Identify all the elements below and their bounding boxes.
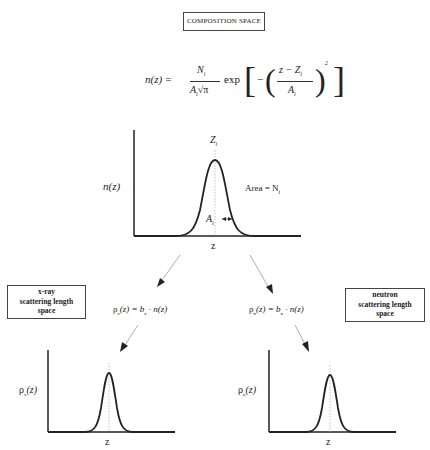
peak-label: Zi [210, 134, 217, 147]
neutron-box-line-3: space [346, 309, 424, 319]
neutron-space-box: neutron scattering length space [345, 288, 425, 322]
main-ylabel: n(z) [103, 180, 120, 192]
neutron-box-line-2: scattering length [346, 300, 424, 310]
main-xlabel: z [211, 240, 215, 251]
diagram-graphics [0, 0, 430, 450]
neutron-equation: ρn(z) = bn · n(z) [249, 304, 304, 316]
xray-box-line-2: scattering length [8, 297, 85, 307]
xray-space-box: x-ray scattering length space [7, 285, 86, 319]
xray-equation: ρx(z) = bx · n(z) [113, 304, 167, 316]
xray-box-line-1: x-ray [8, 287, 85, 297]
xray-ylabel: ρx(z) [19, 384, 37, 397]
xray-box-line-3: space [8, 306, 85, 316]
area-label: Area = Ni [245, 183, 280, 195]
neutron-box-line-1: neutron [346, 290, 424, 300]
width-label: Ai [206, 213, 214, 226]
neutron-plot-axes [269, 350, 396, 432]
neutron-ylabel: ρn(z) [238, 384, 256, 397]
neutron-xlabel: z [326, 436, 330, 447]
xray-plot-axes [48, 350, 175, 432]
xray-xlabel: z [105, 436, 109, 447]
